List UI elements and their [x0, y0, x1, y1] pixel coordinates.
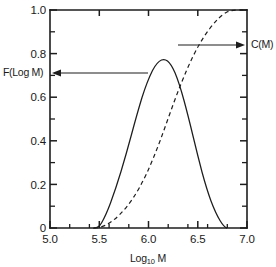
x-tick-label-5-5: 5.5 — [92, 233, 107, 245]
y-axis-label-right: C(M) — [251, 38, 273, 50]
y-tick-label-0-8: 0.8 — [31, 48, 46, 60]
curve-f-log-m — [94, 60, 227, 228]
y-tick-label-1-0: 1.0 — [31, 4, 46, 16]
x-tick-label-7-0: 7.0 — [239, 233, 254, 245]
x-axis-tick-labels: 5.0 5.5 6.0 6.5 7.0 — [42, 233, 254, 245]
x-axis-title-suffix: M — [158, 252, 167, 264]
arrow-head-right-icon — [236, 42, 245, 49]
x-tick-label-5-0: 5.0 — [42, 233, 57, 245]
x-tick-label-6-5: 6.5 — [190, 233, 205, 245]
x-axis-title: Log10 M — [130, 252, 166, 266]
chart-canvas: 0 0.2 0.4 0.6 0.8 1.0 5.0 5.5 6.0 6.5 7.… — [0, 0, 276, 267]
x-axis-title-subscript: 10 — [147, 257, 155, 266]
y-tick-label-0-2: 0.2 — [31, 179, 46, 191]
svg-text:Log10 M: Log10 M — [130, 252, 166, 266]
plot-frame — [50, 10, 247, 228]
annotation-arrow-c-m — [178, 42, 245, 49]
chart-figure: 0 0.2 0.4 0.6 0.8 1.0 5.0 5.5 6.0 6.5 7.… — [0, 0, 276, 267]
y-axis-ticks-left — [50, 10, 57, 228]
y-axis-ticks-right — [240, 10, 247, 228]
curve-c-m — [94, 10, 247, 228]
y-tick-label-0-6: 0.6 — [31, 91, 46, 103]
y-axis-tick-labels: 0 0.2 0.4 0.6 0.8 1.0 — [31, 4, 47, 234]
y-tick-label-0-4: 0.4 — [31, 135, 47, 147]
x-tick-label-6-0: 6.0 — [141, 233, 156, 245]
y-axis-label-left: F(Log M) — [3, 66, 43, 78]
x-axis-ticks-bottom — [50, 221, 247, 228]
x-axis-ticks-top — [99, 10, 198, 16]
annotation-arrow-f-log-m — [52, 70, 148, 77]
x-axis-title-base: Log — [130, 252, 147, 264]
